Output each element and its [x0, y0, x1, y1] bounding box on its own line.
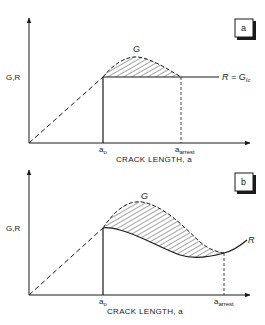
- svg-text:a: a: [241, 23, 246, 33]
- x-axis-label: CRACK LENGTH, a: [107, 307, 183, 316]
- g-loading-line: [29, 228, 103, 295]
- a0-tick-label: ao: [99, 145, 107, 155]
- a0-tick-label: ao: [99, 297, 107, 307]
- svg-text:b: b: [241, 177, 246, 187]
- hatched-energy-area: [100, 50, 190, 80]
- a-arrest-tick-label: aarrest: [214, 297, 234, 307]
- panel-a: G,R G R = GIc ao aarrest CRACK LENGTH, a…: [6, 18, 256, 164]
- g-curve-label: G: [141, 191, 148, 201]
- r-curve-label: R: [248, 235, 255, 245]
- g-loading-line: [29, 77, 103, 143]
- y-axis-label: G,R: [6, 224, 20, 233]
- crack-arrest-diagram: G,R G R = GIc ao aarrest CRACK LENGTH, a…: [0, 0, 265, 325]
- r-equals-gic-label: R = GIc: [222, 72, 250, 83]
- panel-tag-b: b: [235, 173, 256, 194]
- y-axis-label: G,R: [6, 73, 20, 82]
- g-curve-label: G: [133, 44, 140, 54]
- a-arrest-tick-label: aarrest: [175, 145, 195, 155]
- panel-tag-a: a: [235, 19, 256, 40]
- panel-b: G,R G R ao aarrest CRACK LENGTH, a b: [6, 170, 256, 316]
- x-axis-label: CRACK LENGTH, a: [116, 155, 192, 164]
